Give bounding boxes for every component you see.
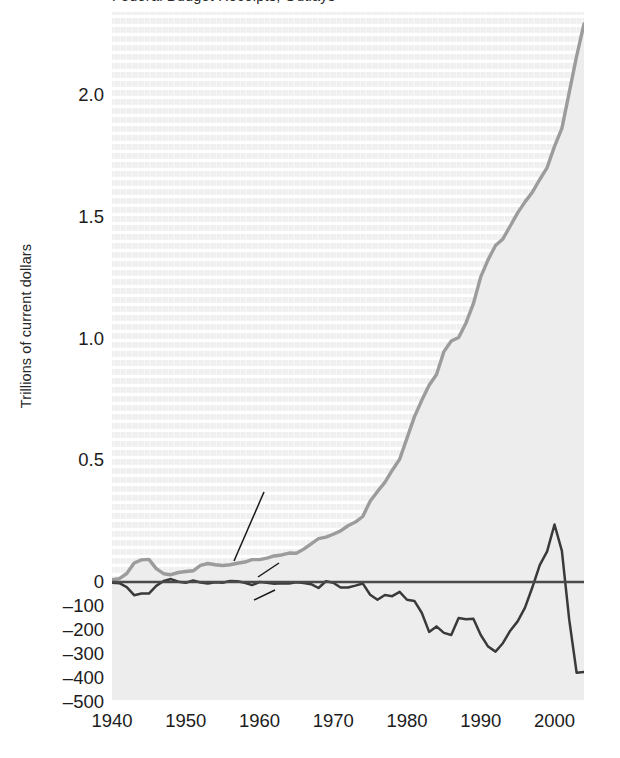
chart-figure: Federal Budget Receipts, Outlays Trillio… (0, 0, 620, 758)
chart-plot-area (0, 0, 620, 758)
